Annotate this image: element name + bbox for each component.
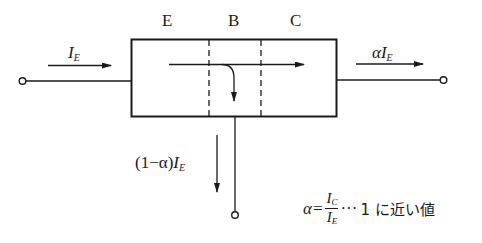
denominator-subscript: E <box>332 216 338 226</box>
emitter-terminal <box>19 78 26 85</box>
collector-region-label: C <box>290 12 301 29</box>
numerator-subscript: C <box>331 197 337 207</box>
collector-current-label: αIE <box>372 44 393 63</box>
collector-current-prefix: α <box>372 43 381 62</box>
emitter-current-subscript: E <box>74 52 80 63</box>
collector-current-subscript: E <box>387 52 393 63</box>
formula-fraction: IC IE <box>325 191 338 226</box>
formula-numerator: IC <box>325 191 338 209</box>
formula-note: 1 に近い値 <box>360 198 434 219</box>
formula-lhs: α= <box>303 199 323 219</box>
emitter-region-label: E <box>162 12 172 29</box>
internal-base-branch-arrow <box>222 65 234 102</box>
collector-terminal <box>440 77 447 84</box>
base-current-label: (1−α)IE <box>135 154 185 173</box>
formula-ellipsis: ··· <box>340 199 357 219</box>
base-region-label: B <box>228 12 239 29</box>
base-current-subscript: E <box>179 162 185 173</box>
alpha-formula: α= IC IE ··· 1 に近い値 <box>303 191 435 226</box>
base-current-prefix: (1−α) <box>135 153 173 172</box>
base-terminal <box>232 212 239 219</box>
emitter-current-label: IE <box>68 44 80 63</box>
formula-denominator: IE <box>327 209 338 226</box>
